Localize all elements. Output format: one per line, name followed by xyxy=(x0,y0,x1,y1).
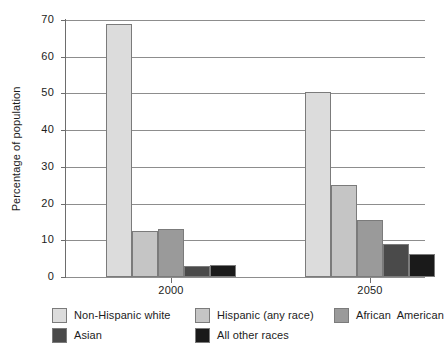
y-tick-10 xyxy=(61,240,66,241)
y-tick-label-0: 0 xyxy=(10,271,54,282)
y-tick-label-50: 50 xyxy=(10,87,54,98)
legend-swatch-icon xyxy=(52,308,67,323)
plot-area: 010203040506070 xyxy=(66,20,425,277)
legend-label: Non-Hispanic white xyxy=(74,309,171,321)
bar-2050-asian xyxy=(383,244,409,277)
bar-2000-asian xyxy=(184,266,210,277)
legend-swatch-icon xyxy=(52,328,67,343)
bar-2050-non-hispanic-white xyxy=(305,92,331,277)
bar-2000-non-hispanic-white xyxy=(106,24,132,277)
legend-swatch-icon xyxy=(195,328,210,343)
legend-item-all-other-races[interactable]: All other races xyxy=(195,326,289,344)
y-axis-label: Percentage of population xyxy=(10,86,22,211)
legend-row: AsianAll other races xyxy=(52,326,442,344)
legend-label: Asian xyxy=(74,329,102,341)
legend-item-non-hispanic-white[interactable]: Non-Hispanic white xyxy=(52,306,171,324)
bar-chart: Percentage of population 010203040506070… xyxy=(0,0,447,360)
legend-label: Hispanic (any race) xyxy=(217,309,314,321)
bar-2000-all-other-races xyxy=(210,265,236,277)
legend-row: Non-Hispanic whiteHispanic (any race)Afr… xyxy=(52,306,442,324)
y-tick-60 xyxy=(61,57,66,58)
x-tick-label-2050: 2050 xyxy=(335,284,405,296)
x-tick-2050 xyxy=(370,278,371,283)
gridline-70 xyxy=(66,20,425,21)
y-tick-50 xyxy=(61,93,66,94)
bar-2000-hispanic-any-race- xyxy=(132,231,158,277)
y-tick-label-30: 30 xyxy=(10,161,54,172)
y-tick-20 xyxy=(61,204,66,205)
y-tick-label-70: 70 xyxy=(10,14,54,25)
bar-2050-all-other-races xyxy=(409,254,435,277)
y-tick-label-60: 60 xyxy=(10,51,54,62)
gridline-0 xyxy=(66,277,425,278)
x-tick-label-2000: 2000 xyxy=(136,284,206,296)
legend-item-asian[interactable]: Asian xyxy=(52,326,102,344)
y-tick-70 xyxy=(61,20,66,21)
legend-label: African American xyxy=(356,309,444,321)
y-tick-label-20: 20 xyxy=(10,198,54,209)
bar-2050-hispanic-any-race- xyxy=(331,185,357,277)
legend-item-african-american[interactable]: African American xyxy=(334,306,444,324)
x-tick-2000 xyxy=(171,278,172,283)
bar-2050-african-american xyxy=(357,220,383,277)
legend-label: All other races xyxy=(217,329,289,341)
y-tick-0 xyxy=(61,277,66,278)
legend-item-hispanic-any-race-[interactable]: Hispanic (any race) xyxy=(195,306,314,324)
y-tick-40 xyxy=(61,130,66,131)
legend-swatch-icon xyxy=(195,308,210,323)
y-tick-label-40: 40 xyxy=(10,124,54,135)
y-tick-30 xyxy=(61,167,66,168)
legend-swatch-icon xyxy=(334,308,349,323)
bar-2000-african-american xyxy=(158,229,184,277)
y-tick-label-10: 10 xyxy=(10,234,54,245)
